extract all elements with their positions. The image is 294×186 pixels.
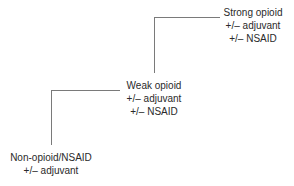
connector-step2-step3-vertical xyxy=(154,17,155,73)
step-strong-opioid: Strong opioid +/– adjuvant +/– NSAID xyxy=(224,6,283,45)
step-weak-opioid: Weak opioid +/– adjuvant +/– NSAID xyxy=(127,79,182,118)
step-non-opioid-title: Non-opioid/NSAID xyxy=(10,151,92,164)
step-strong-opioid-nsaid: +/– NSAID xyxy=(224,32,283,45)
connector-step2-step3-horizontal xyxy=(154,17,220,18)
step-weak-opioid-nsaid: +/– NSAID xyxy=(127,105,182,118)
connector-step1-step2-vertical xyxy=(51,90,52,145)
step-strong-opioid-adjuvant: +/– adjuvant xyxy=(224,19,283,32)
step-weak-opioid-title: Weak opioid xyxy=(127,79,182,92)
connector-step1-step2-horizontal xyxy=(51,90,120,91)
step-weak-opioid-adjuvant: +/– adjuvant xyxy=(127,92,182,105)
step-non-opioid: Non-opioid/NSAID +/– adjuvant xyxy=(10,151,92,177)
step-strong-opioid-title: Strong opioid xyxy=(224,6,283,19)
step-non-opioid-adjuvant: +/– adjuvant xyxy=(10,164,92,177)
